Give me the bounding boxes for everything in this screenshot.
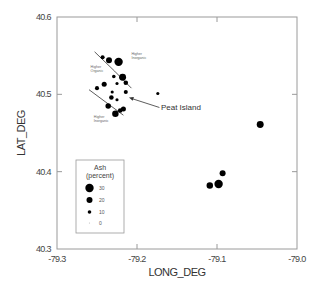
y-tick-label: 40.4 [36,167,52,177]
arrow-icon [132,99,159,108]
arrowhead-icon [129,97,134,101]
legend-symbol [88,210,92,214]
data-point [220,170,226,176]
x-tick-label: -79.3 [48,254,66,264]
data-point [109,95,114,100]
legend-label: 10 [99,209,105,215]
data-point [114,58,122,66]
legend-label: 0 [99,220,102,226]
region-annotation: HigherOrganic [91,65,104,73]
y-tick-label: 40.5 [36,89,52,99]
data-point [214,180,222,188]
peat-island-callout: Peat Island [129,97,201,113]
x-axis-label: LONG_DEG [148,266,205,278]
callout-label: Peat Island [161,103,201,112]
y-tick-label: 40.3 [36,244,52,254]
y-axis-label: LAT_DEG [15,110,27,156]
data-point [112,110,118,116]
data-point [156,92,159,95]
data-point [112,75,116,79]
legend-label: 30 [99,185,105,191]
legend: Ash (percent) 3020100 [76,160,124,233]
data-point [101,55,105,59]
x-tick-labels: -79.3-79.2-79.1-79.0 [48,254,306,264]
data-point [119,74,126,81]
data-point [115,82,118,85]
region-annotation: HigherInorganic [131,52,146,60]
legend-label: 20 [99,197,105,203]
data-point [118,108,123,113]
data-point [102,82,107,87]
region-annotation: HigherInorganic [94,115,109,123]
data-point [106,57,112,63]
y-tick-label: 40.6 [36,12,52,22]
scatter-chart: -79.3-79.2-79.1-79.0 40.340.440.540.6 LO… [0,0,318,289]
data-point [111,90,114,93]
data-point [115,98,118,101]
y-tick-labels: 40.340.440.540.6 [36,12,52,254]
data-point [124,90,128,94]
data-point [124,80,129,85]
legend-symbol [87,197,93,203]
legend-title: Ash [94,164,106,171]
data-point [95,86,99,90]
data-point [207,182,213,188]
data-point [257,121,264,128]
legend-symbol [85,184,93,192]
x-tick-label: -79.2 [128,254,146,264]
x-tick-label: -79.1 [208,254,226,264]
legend-symbol [89,222,90,223]
legend-subtitle: (percent) [86,172,114,180]
x-tick-label: -79.0 [288,254,306,264]
data-point [105,103,111,109]
